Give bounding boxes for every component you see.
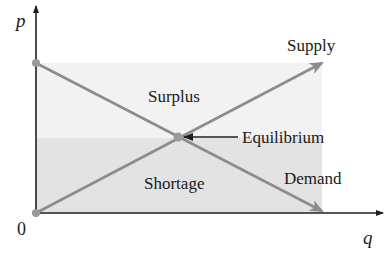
- equilibrium-label: Equilibrium: [242, 128, 324, 147]
- supply-demand-diagram: p q 0 Supply Demand Surplus Shortage Equ…: [0, 0, 389, 263]
- origin-point: [32, 209, 40, 217]
- origin-label: 0: [17, 219, 26, 239]
- demand-intercept-point: [32, 59, 40, 67]
- equilibrium-point: [174, 133, 183, 142]
- x-axis-label: q: [363, 227, 373, 248]
- supply-label: Supply: [287, 36, 336, 55]
- shortage-label: Shortage: [144, 174, 204, 193]
- y-axis-label: p: [14, 10, 26, 31]
- demand-label: Demand: [284, 169, 342, 188]
- surplus-label: Surplus: [148, 87, 200, 106]
